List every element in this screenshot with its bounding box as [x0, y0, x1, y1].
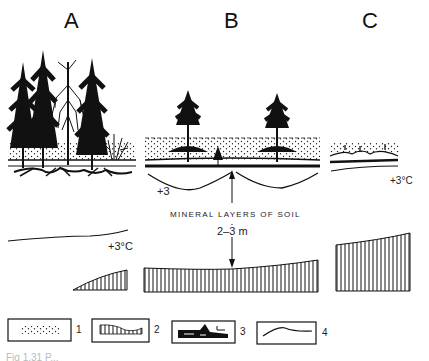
depth-label: 2–3 m [216, 225, 249, 237]
spruce-tree-icon [257, 93, 297, 162]
legend-number-3: 3 [240, 326, 246, 337]
spruce-tree-icon [76, 58, 108, 170]
mineral-layers-label: MINERAL LAYERS OF SOIL [170, 210, 301, 219]
panel-c-isotherm-line [331, 166, 398, 171]
legend-item-4 [257, 322, 316, 344]
legend-number-4: 4 [322, 327, 328, 338]
legend-number-2: 2 [154, 324, 160, 335]
figure-caption: Fig 1.31 P... [6, 352, 59, 361]
panel-b-forest [145, 90, 320, 166]
legend-item-3 [172, 321, 235, 343]
legend-item-2 [92, 319, 149, 342]
panel-c-tundra [329, 143, 399, 162]
panel-c-temperature-label: +3°C [390, 175, 413, 186]
legend-item-1 [8, 319, 71, 341]
depth-arrow [229, 170, 235, 268]
panel-a-permafrost-table [73, 270, 127, 290]
panel-a-temperature-label: +3°C [108, 240, 133, 252]
spruce-tree-icon [168, 90, 208, 162]
legend [8, 319, 316, 344]
legend-number-1: 1 [76, 324, 82, 335]
panel-a-forest [8, 50, 136, 176]
panel-b-temperature-label: +3 [157, 185, 170, 197]
soil-diagram [0, 0, 429, 361]
panel-c-permafrost-table [336, 233, 410, 291]
